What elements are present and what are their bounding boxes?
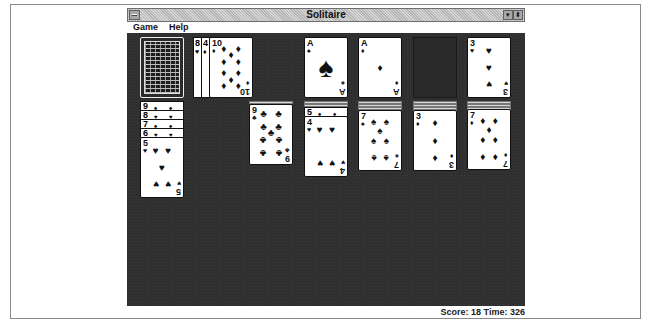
tableau-card[interactable]: 8 ♥ ♥ [140,110,184,119]
menu-game[interactable]: Game [133,22,158,33]
waste-top-card[interactable]: 10 ♦ ♦ ♦ ♦ ♦ ♦ ♦ ♦ ♦ ♦ ♦ 10 ♦ [209,37,253,98]
diamond-icon: ♦ [377,63,382,73]
club-icon: ♣ [275,122,282,132]
tableau-top-card[interactable]: 7 ♦ ♦ ♦ ♦ ♦ ♦ ♦ ♦ 7 ♦ [467,109,511,170]
club-icon: ♣ [275,109,282,119]
foundation-spades[interactable]: A ♠ ♠ A ♠ [304,37,348,98]
maximize-button[interactable]: ⬍ [513,10,523,20]
diamond-icon: ♦ [480,135,485,145]
diamond-icon: ♦ [493,152,498,162]
diamond-icon: ♦ [221,57,226,67]
score-value: 18 [471,307,481,317]
tableau-card[interactable]: 7 ♠ ♠ [140,119,184,128]
heart-icon: ♥ [165,146,171,156]
club-icon: ♣ [275,148,282,158]
title-bar[interactable]: Solitaire ▾ ⬍ [127,8,525,22]
time-label: Time: [484,307,508,317]
club-icon: ♣ [260,109,267,119]
diamond-icon: ♦ [212,47,216,54]
foundation-hearts[interactable]: 3 ♥ ♥ ♥ ♥ 3 ♥ [467,37,511,98]
heart-icon: ♥ [195,48,199,55]
heart-icon: ♥ [153,179,159,189]
tableau-top-card[interactable]: 9 ♣ ♣ ♣ ♣ ♣ ♣ ♣ ♣ ♣ ♣ 9 ♣ [249,104,293,165]
heart-icon: ♥ [486,63,492,73]
diamond-icon: ♦ [432,136,437,146]
diamond-icon: ♦ [236,68,241,78]
diamond-icon: ♦ [486,125,491,135]
score-label: Score: [441,307,469,317]
diamond-icon: ♦ [493,135,498,145]
club-icon: ♣ [268,128,275,138]
diamond-icon: ♦ [203,48,207,55]
card-back-pattern [144,41,180,94]
heart-icon: ♥ [329,125,335,135]
diamond-icon: ♦ [236,57,241,67]
heart-icon: ♥ [165,179,171,189]
foundation-empty-slot[interactable] [413,37,457,98]
minimize-button[interactable]: ▾ [503,10,513,20]
tableau-top-card[interactable]: 3 ♦ ♦ ♦ ♦ 3 ♦ [413,110,457,171]
diamond-icon: ♦ [228,50,233,60]
stock-pile[interactable] [140,37,184,98]
tableau-card[interactable]: 6 ♥ ♥ [140,128,184,137]
spade-icon: ♠ [371,153,376,163]
foundation-diamonds[interactable]: A ♦ ♦ A ♦ [358,37,402,98]
spade-icon: ♠ [384,117,389,127]
menu-help[interactable]: Help [169,22,189,33]
heart-icon: ♥ [159,163,165,173]
diamond-icon: ♦ [221,44,226,54]
spade-icon: ♠ [377,126,382,136]
diamond-icon: ♦ [221,81,226,91]
club-icon: ♣ [275,135,282,145]
solitaire-window: Solitaire ▾ ⬍ Game Help 8 ♥ 4 ♦ 10 ♦ ♦ ♦… [127,8,525,320]
diamond-icon: ♦ [432,118,437,128]
diamond-icon: ♦ [432,153,437,163]
status-bar: Score: 18 Time: 326 [441,306,525,318]
club-icon: ♣ [260,135,267,145]
diamond-icon: ♦ [228,75,233,85]
heart-icon: ♥ [486,46,492,56]
diamond-icon: ♦ [480,116,485,126]
game-table[interactable]: 8 ♥ 4 ♦ 10 ♦ ♦ ♦ ♦ ♦ ♦ ♦ ♦ ♦ ♦ ♦ 10 ♦ [127,33,525,306]
tableau-top-card[interactable]: 7 ♠ ♠ ♠ ♠ ♠ ♠ ♠ ♠ 7 ♠ [358,110,402,171]
tableau-card[interactable]: 5 ♠ ♠ [304,107,348,116]
spade-icon: ♠ [371,117,376,127]
heart-icon: ♥ [329,158,335,168]
heart-icon: ♥ [153,146,159,156]
window-title: Solitaire [303,9,348,20]
diamond-icon: ♦ [480,152,485,162]
club-icon: ♣ [260,148,267,158]
tableau-top-card[interactable]: 4 ♥ ♥ ♥ ♥ ♥ 4 ♥ [304,116,348,177]
time-value: 326 [510,307,525,317]
diamond-icon: ♦ [493,116,498,126]
heart-icon: ♥ [486,79,492,89]
diamond-icon: ♦ [236,44,241,54]
tableau-card[interactable]: 9 ♠ ♠ [140,101,184,110]
club-icon: ♣ [260,122,267,132]
tableau-top-card[interactable]: 5 ♥ ♥ ♥ ♥ ♥ ♥ 5 ♥ [140,137,184,198]
heart-icon: ♥ [317,125,323,135]
spade-icon: ♠ [384,136,389,146]
spade-icon: ♠ [384,153,389,163]
diamond-icon: ♦ [221,68,226,78]
menu-bar: Game Help [127,22,525,33]
heart-icon: ♥ [317,158,323,168]
spade-icon: ♠ [371,136,376,146]
spade-icon: ♠ [319,54,334,82]
